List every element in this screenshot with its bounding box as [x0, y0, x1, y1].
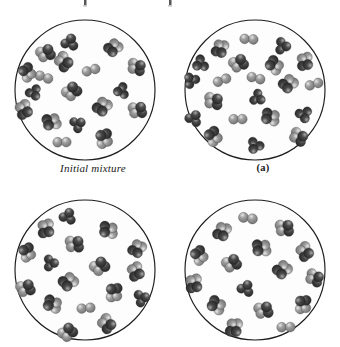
panel-panel-c	[178, 192, 340, 347]
panel-panel-initial: Initial mixture	[8, 12, 178, 172]
atom-sphere-light	[77, 304, 87, 314]
reaction-vessel-panel-c	[178, 192, 338, 347]
atom-sphere-dark	[50, 259, 59, 268]
reaction-vessel-panel-initial	[8, 12, 168, 172]
panel-caption-panel-a: (a)	[178, 162, 340, 173]
vessel-canvas	[8, 12, 163, 164]
panel-caption-panel-initial: Initial mixture	[8, 162, 178, 174]
atom-sphere-dark	[207, 300, 218, 311]
panel-panel-a: (a)	[178, 12, 340, 172]
reaction-vessel-panel-a	[178, 12, 338, 172]
atom-sphere-dark	[298, 131, 308, 141]
atom-sphere-light	[85, 303, 95, 313]
reaction-vessel-panel-b	[8, 192, 168, 347]
vessel-canvas	[178, 12, 333, 164]
panel-panel-b	[8, 192, 178, 347]
vessel-canvas	[8, 192, 163, 344]
vessel-canvas	[178, 192, 333, 344]
cropped-text-remnants	[0, 0, 340, 10]
